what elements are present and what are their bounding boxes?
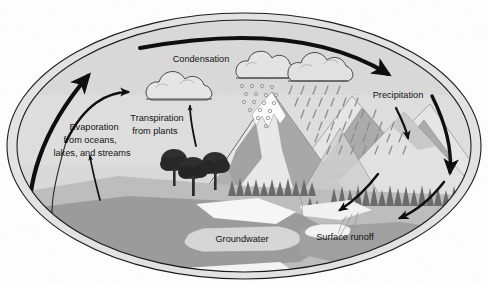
water-cycle-diagram: Condensation Evaporation from oceans, la…: [0, 0, 488, 286]
label-surface-runoff: Surface runoff: [316, 232, 374, 242]
label-evaporation-line3: lakes, and streams: [53, 148, 131, 158]
diagram-canvas: Condensation Evaporation from oceans, la…: [0, 0, 488, 286]
label-transpiration-line1: Transpiration: [130, 113, 183, 123]
label-evaporation-line2: from oceans,: [63, 135, 116, 145]
label-groundwater: Groundwater: [215, 234, 268, 244]
label-precipitation: Precipitation: [373, 90, 424, 100]
label-transpiration-line2: from plants: [132, 126, 178, 136]
label-condensation: Condensation: [173, 54, 230, 64]
label-evaporation-line1: Evaporation: [69, 122, 118, 132]
